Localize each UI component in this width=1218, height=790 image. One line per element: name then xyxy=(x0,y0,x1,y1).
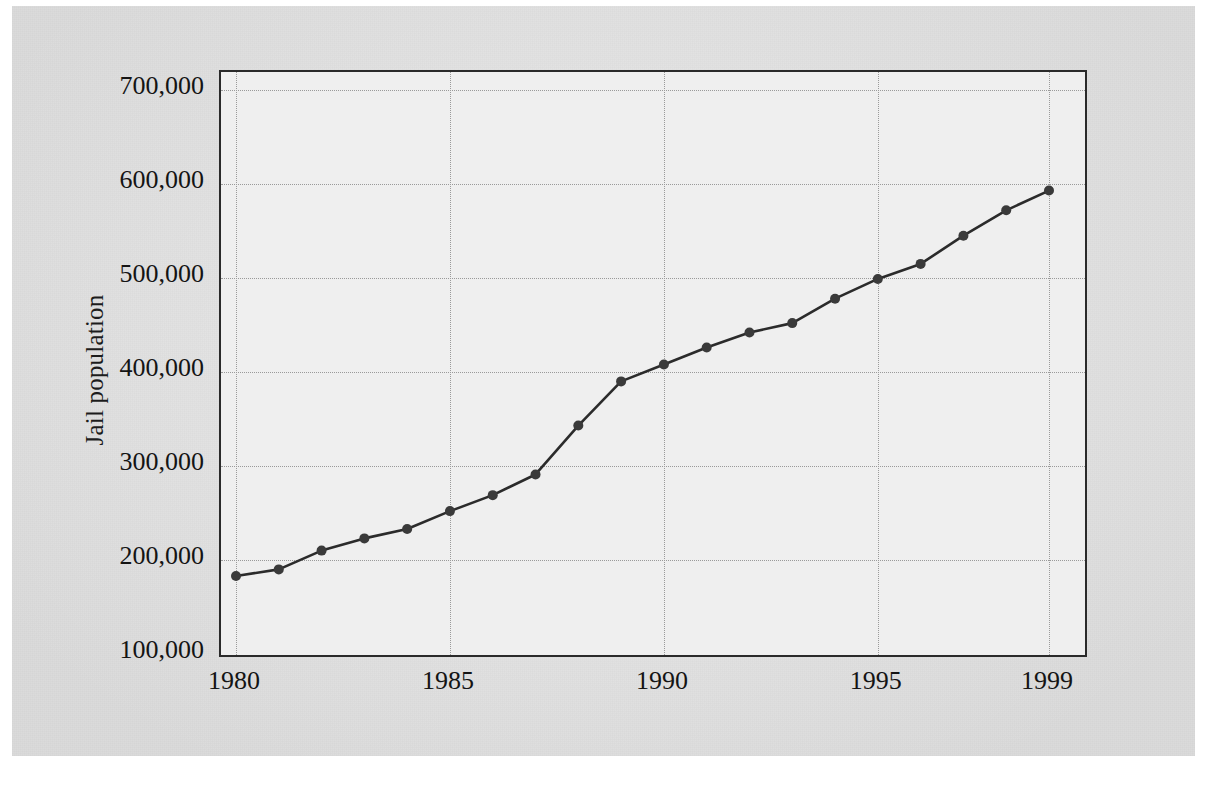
page-root: Jail population 100,000200,000300,000400… xyxy=(0,0,1218,790)
y-tick-700000: 700,000 xyxy=(74,71,204,101)
y-tick-300000: 300,000 xyxy=(74,447,204,477)
y-tick-100000: 100,000 xyxy=(74,635,204,665)
y-tick-600000: 600,000 xyxy=(74,165,204,195)
data-point-1993 xyxy=(787,318,797,328)
x-tick-1985: 1985 xyxy=(388,666,508,696)
data-point-1996 xyxy=(916,259,926,269)
data-point-1985 xyxy=(445,506,455,516)
data-point-1982 xyxy=(317,546,327,556)
data-point-1986 xyxy=(488,490,498,500)
x-tick-1999: 1999 xyxy=(987,666,1107,696)
x-tick-1990: 1990 xyxy=(602,666,722,696)
data-point-1989 xyxy=(616,376,626,386)
plot-area xyxy=(219,70,1087,657)
series-line-jail-population xyxy=(221,72,1084,654)
x-tick-1995: 1995 xyxy=(816,666,936,696)
data-point-1997 xyxy=(958,231,968,241)
data-point-1995 xyxy=(873,274,883,284)
data-point-1999 xyxy=(1044,186,1054,196)
y-tick-400000: 400,000 xyxy=(74,353,204,383)
data-point-1991 xyxy=(702,343,712,353)
data-point-1980 xyxy=(231,571,241,581)
x-tick-1980: 1980 xyxy=(174,666,294,696)
x-axis-tick-labels: 19801985199019951999 xyxy=(0,666,1218,706)
data-point-1988 xyxy=(573,421,583,431)
y-tick-200000: 200,000 xyxy=(74,541,204,571)
data-point-1981 xyxy=(274,564,284,574)
data-point-1990 xyxy=(659,359,669,369)
data-point-1998 xyxy=(1001,205,1011,215)
line-chart-figure: Jail population 100,000200,000300,000400… xyxy=(0,0,1218,790)
plot-inner xyxy=(221,72,1085,655)
data-point-1992 xyxy=(744,328,754,338)
data-point-1994 xyxy=(830,294,840,304)
data-point-1984 xyxy=(402,524,412,534)
data-line xyxy=(236,191,1049,576)
data-point-1983 xyxy=(359,533,369,543)
data-point-1987 xyxy=(531,469,541,479)
y-tick-500000: 500,000 xyxy=(74,259,204,289)
